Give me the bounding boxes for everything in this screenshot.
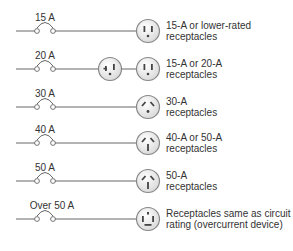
breaker-rating-label: 40 A xyxy=(15,124,75,135)
description-line: 40-A or 50-A xyxy=(166,132,291,143)
breaker-rating-label: 15 A xyxy=(15,12,75,23)
description-line: Receptacles same as circuit xyxy=(166,208,291,219)
description-line: receptacles xyxy=(166,143,291,154)
description-line: receptacles xyxy=(166,181,291,192)
breaker-rating-label: 20 A xyxy=(15,50,75,61)
receptacle-15a-icon xyxy=(137,58,160,81)
receptacle-description: Receptacles same as circuit rating (over… xyxy=(166,208,291,230)
receptacle-description: 15-A or 20-A receptacles xyxy=(166,58,291,80)
receptacle-description: 30-A receptacles xyxy=(166,96,291,118)
breaker-rating-label: Over 50 A xyxy=(22,200,82,211)
description-line: receptacles xyxy=(166,31,291,42)
description-line: receptacles xyxy=(166,69,291,80)
receptacle-description: 50-A receptacles xyxy=(166,170,291,192)
receptacle-50a-icon xyxy=(137,170,160,193)
receptacle-description: 40-A or 50-A receptacles xyxy=(166,132,291,154)
description-line: 15-A or lower-rated xyxy=(166,20,291,31)
receptacle-over-50a-icon xyxy=(137,208,160,231)
receptacle-description: 15-A or lower-rated receptacles xyxy=(166,20,291,42)
receptacle-50a-icon xyxy=(137,132,160,155)
description-line: 30-A xyxy=(166,96,291,107)
description-line: rating (overcurrent device) xyxy=(166,219,291,230)
receptacle-15a-icon xyxy=(137,20,160,43)
breaker-rating-label: 50 A xyxy=(15,162,75,173)
description-line: 15-A or 20-A xyxy=(166,58,291,69)
description-line: receptacles xyxy=(166,107,291,118)
receptacle-20a-icon xyxy=(99,58,122,81)
breaker-rating-label: 30 A xyxy=(15,88,75,99)
receptacle-30a-icon xyxy=(137,96,160,119)
description-line: 50-A xyxy=(166,170,291,181)
